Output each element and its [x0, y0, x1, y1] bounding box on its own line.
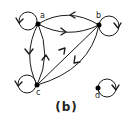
node-b	[97, 23, 102, 28]
edge-c-c-self-loop	[15, 75, 36, 93]
edge-b-to-a	[38, 12, 99, 25]
node-d	[96, 86, 101, 91]
node-label-d: d	[95, 91, 100, 100]
node-label-a: a	[40, 11, 45, 20]
edge-a-a-self-loop	[16, 12, 37, 30]
edge-d-d-self-loop	[98, 79, 119, 97]
node-label-c: c	[36, 88, 40, 97]
node-c	[35, 83, 40, 88]
arrow-down-left-icon	[74, 56, 80, 63]
arrow-up-right-icon	[59, 48, 65, 54]
arrow-down-icon	[114, 23, 121, 28]
arrow-up-icon	[42, 55, 49, 60]
arrow-down-icon	[25, 49, 33, 54]
edge-c-to-a	[37, 24, 49, 85]
node-a	[36, 22, 41, 27]
edge-b-b-self-loop	[99, 16, 121, 36]
node-label-b: b	[96, 11, 101, 20]
figure-caption: (b)	[0, 100, 133, 114]
